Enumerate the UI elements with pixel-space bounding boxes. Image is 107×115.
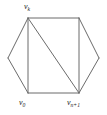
edge-group — [8, 18, 99, 93]
vertex-label-v0-sub: 0 — [23, 102, 26, 108]
vertex-label-vn1: vn+1 — [67, 99, 80, 107]
vertex-label-v0: v0 — [19, 99, 25, 107]
vertex-label-vn1-sub: n+1 — [71, 102, 80, 108]
hexagon-graph-svg — [0, 0, 107, 115]
vertex-label-vk-sub: k — [28, 6, 30, 12]
edge-bottom_left-left — [8, 58, 28, 93]
edge-top_right-right — [79, 18, 99, 58]
edge-left-top_left — [8, 18, 28, 58]
edge-right-bottom_right — [79, 58, 99, 93]
figure-container: vk v0 vn+1 — [0, 0, 107, 115]
edge-top_left-bottom_right — [28, 18, 79, 93]
vertex-label-vk: vk — [24, 3, 30, 11]
